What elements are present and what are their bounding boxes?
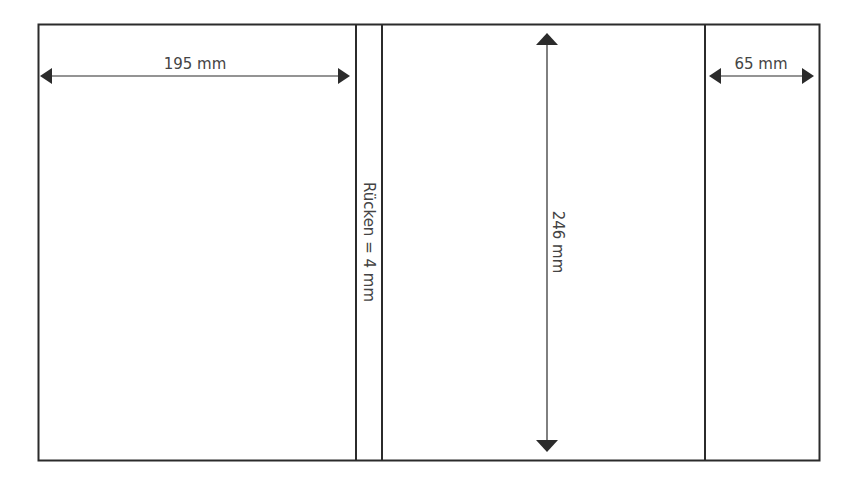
flap-width-label: 65 mm (734, 55, 787, 73)
flap-width-dimension: 65 mm (709, 55, 814, 84)
arrowhead-up-icon (536, 33, 558, 45)
arrowhead-right-icon (802, 68, 814, 84)
back-cover-width-dimension: 195 mm (40, 55, 350, 84)
cover-outline (39, 25, 820, 461)
front-cover-height-label: 246 mm (549, 211, 567, 274)
arrowhead-left-icon (709, 68, 721, 84)
spine-label: Rücken = 4 mm (360, 182, 378, 302)
arrowhead-left-icon (40, 68, 52, 84)
book-cover-diagram: 195 mm 65 mm 246 mm Rücken = 4 mm (0, 0, 846, 479)
arrowhead-right-icon (338, 68, 350, 84)
back-cover-width-label: 195 mm (164, 55, 227, 73)
arrowhead-down-icon (536, 440, 558, 452)
front-cover-height-dimension: 246 mm (536, 33, 567, 452)
